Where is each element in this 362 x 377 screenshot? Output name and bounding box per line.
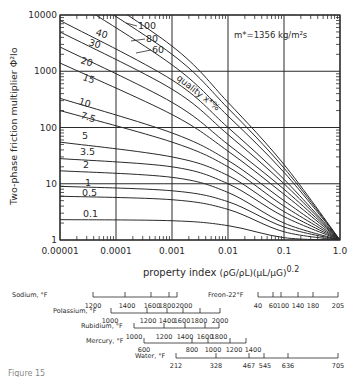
curve-label-0-5: 0.5 bbox=[82, 187, 97, 198]
y-axis-title: Two-phase friction multiplier Φ²lo bbox=[8, 47, 19, 206]
scale-tick-label: 328 bbox=[210, 362, 222, 370]
curve-label-0-1: 0.1 bbox=[83, 208, 98, 219]
curve-label-3-5: 3.5 bbox=[80, 146, 95, 157]
x-axis-title: property index (ρG/ρL)(μL/μG)0.2 bbox=[143, 265, 299, 278]
x-tick-label: 1.0 bbox=[333, 246, 348, 256]
temperature-scales: Sodium, °F12001400160018002000Polassium,… bbox=[12, 291, 344, 370]
scale-tick-label: 100 bbox=[277, 302, 289, 310]
scale-tick-label: 1000 bbox=[205, 346, 222, 354]
y-tick-label: 1 bbox=[51, 235, 57, 245]
quality-curve-30 bbox=[60, 32, 340, 240]
y-tick-label: 10 bbox=[46, 179, 58, 189]
quality-curve-7.5 bbox=[60, 111, 340, 240]
scale-name: Sodium, °F bbox=[12, 291, 48, 299]
scale-tick-label: 40 bbox=[254, 302, 262, 310]
scale-tick-label: 467 bbox=[243, 362, 255, 370]
scale-mercury: Mercury, °F600800100012001400 bbox=[86, 337, 261, 354]
grid bbox=[60, 15, 340, 240]
scale-sodium: Sodium, °F12001400160018002000 bbox=[12, 291, 192, 310]
y-tick-label: 1000 bbox=[34, 66, 57, 76]
scale-tick-label: 212 bbox=[170, 362, 182, 370]
x-tick-label: 0.0001 bbox=[100, 246, 132, 256]
curve-label-20: 20 bbox=[79, 54, 94, 68]
quality-curve-5 bbox=[60, 142, 340, 240]
x-axis-exponent: 0.2 bbox=[287, 265, 300, 274]
scale-name: Freon-22°F bbox=[208, 291, 244, 299]
scale-tick-label: 636 bbox=[282, 362, 294, 370]
x-tick-label: 0.001 bbox=[159, 246, 185, 256]
x-axis-title-text: property index bbox=[143, 267, 220, 278]
scale-tick-label: 1200 bbox=[156, 333, 173, 341]
scale-tick-label: 1400 bbox=[119, 302, 136, 310]
quality-curve-0.5 bbox=[60, 196, 340, 240]
scale-tick-label: 140 bbox=[292, 302, 304, 310]
y-tick-label: 10000 bbox=[28, 10, 57, 20]
figure-caption: Figure 15 bbox=[8, 369, 45, 377]
scale-name: Polassium, °F bbox=[53, 307, 97, 315]
quality-curve-40 bbox=[60, 20, 340, 240]
scale-tick-label: 1400 bbox=[177, 333, 194, 341]
scale-tick-label: 1600 bbox=[174, 317, 191, 325]
friction-multiplier-chart: 0.000010.00010.0010.010.11.0110100100010… bbox=[0, 0, 362, 377]
curve-label-5: 5 bbox=[82, 130, 88, 141]
scale-tick-label: 1200 bbox=[226, 346, 243, 354]
quality-label: quality x*% bbox=[175, 73, 223, 113]
curve-label-60: 60 bbox=[152, 44, 164, 55]
x-axis-formula: (ρG/ρL)(μL/μG) bbox=[220, 268, 287, 278]
scale-tick-label: 1200 bbox=[140, 317, 157, 325]
scale-tick-label: 1000 bbox=[126, 333, 143, 341]
scale-tick-label: 1800 bbox=[211, 333, 228, 341]
x-tick-label: 0.00001 bbox=[41, 246, 78, 256]
scale-tick-label: 545 bbox=[259, 362, 271, 370]
mass-flux-annotation: m*=1356 kg/m²s bbox=[234, 30, 308, 40]
curve-label-100: 100 bbox=[138, 20, 156, 31]
scale-name: Rubidium, °F bbox=[81, 322, 123, 330]
scale-polassium: Polassium, °F100012001400160018002000 bbox=[53, 307, 228, 325]
curve-label-2: 2 bbox=[83, 159, 89, 170]
scale-water: Water, °F212328467545636705 bbox=[135, 352, 344, 370]
x-tick-label: 0.1 bbox=[277, 246, 291, 256]
scale-tick-label: 800 bbox=[186, 346, 198, 354]
scale-tick-label: 205 bbox=[332, 302, 344, 310]
curve-label-7-5: 7.5 bbox=[79, 109, 97, 124]
curve-label-80: 80 bbox=[146, 33, 158, 44]
y-tick-label: 100 bbox=[40, 123, 57, 133]
scale-name: Mercury, °F bbox=[86, 337, 124, 345]
scale-tick-label: 180 bbox=[307, 302, 319, 310]
curve-label-15: 15 bbox=[81, 71, 96, 85]
scale-tick-label: 2000 bbox=[212, 317, 229, 325]
x-tick-label: 0.01 bbox=[218, 246, 238, 256]
scale-name: Water, °F bbox=[135, 352, 166, 360]
scale-tick-label: 705 bbox=[332, 362, 344, 370]
scale-tick-label: 1400 bbox=[245, 346, 262, 354]
scale-tick-label: 2000 bbox=[176, 302, 193, 310]
scale-freon-22-f: Freon-22°F4060100140180205 bbox=[208, 291, 344, 310]
leader-line bbox=[136, 50, 151, 53]
